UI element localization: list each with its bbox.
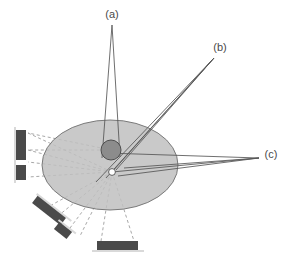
label-b: (b) <box>213 41 226 53</box>
label-c: (c) <box>265 148 278 160</box>
figure-canvas: (a)(b)(c) <box>0 0 291 261</box>
detector-lower-left-short[interactable] <box>52 219 76 241</box>
detector-left-lower-plate[interactable] <box>16 165 26 180</box>
detector-bottom-backing <box>92 250 144 252</box>
detector-left-lower[interactable] <box>16 165 26 180</box>
label-a: (a) <box>105 8 118 20</box>
phantom-layer <box>42 120 178 210</box>
detector-bottom[interactable] <box>92 241 144 252</box>
detector-left-upper-plate[interactable] <box>16 130 26 160</box>
detector-bottom-plate[interactable] <box>97 241 138 250</box>
detector-left-upper-backing <box>14 127 16 183</box>
point-source <box>109 169 116 176</box>
occluding-disc <box>101 140 121 160</box>
elliptical-phantom <box>42 120 178 210</box>
diagram-svg: (a)(b)(c) <box>0 0 291 261</box>
